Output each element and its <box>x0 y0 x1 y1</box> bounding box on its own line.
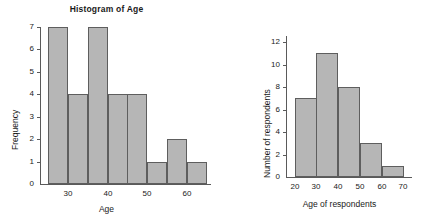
histogram-bar <box>382 166 404 177</box>
y-tick-label: 6 <box>2 45 34 53</box>
y-tick-label: 5 <box>2 68 34 76</box>
x-tick-label: 50 <box>132 190 162 198</box>
y-tick-label: 4 <box>2 90 34 98</box>
y-tick-label: 0 <box>2 180 34 188</box>
y-axis-line <box>286 36 287 177</box>
histogram-bar <box>88 27 108 184</box>
y-tick-mark <box>283 87 286 88</box>
histogram-bar <box>68 94 88 184</box>
histogram-bar <box>167 139 187 184</box>
y-tick-mark <box>283 155 286 156</box>
y-tick-mark <box>37 117 40 118</box>
chart-panel-age-histogram: Histogram of Age 0123456730405060 Age Fr… <box>0 0 213 223</box>
x-axis-line <box>40 184 211 185</box>
histogram-bar <box>147 162 167 184</box>
y-axis-line <box>40 27 41 184</box>
y-tick-mark <box>37 49 40 50</box>
y-tick-mark <box>37 27 40 28</box>
histogram-figure: Histogram of Age 0123456730405060 Age Fr… <box>0 0 426 223</box>
y-tick-label: 7 <box>2 23 34 31</box>
x-axis-title: Age of respondents <box>253 200 426 209</box>
y-axis-title: Number of respondents <box>263 89 272 178</box>
histogram-bar <box>127 94 147 184</box>
histogram-bar <box>187 162 207 184</box>
histogram-bar <box>108 94 128 184</box>
chart-panel-respondents-histogram: 024681012203040506070 Age of respondents… <box>213 0 426 223</box>
x-tick-label: 60 <box>172 190 202 198</box>
y-tick-mark <box>283 65 286 66</box>
y-tick-label: 12 <box>248 38 280 46</box>
histogram-bar <box>295 98 317 177</box>
plot-area: 0123456730405060 <box>0 0 213 223</box>
x-tick-label: 70 <box>388 183 418 191</box>
y-tick-mark <box>37 94 40 95</box>
y-tick-mark <box>283 132 286 133</box>
y-tick-label: 10 <box>248 61 280 69</box>
y-tick-mark <box>37 162 40 163</box>
histogram-bar <box>360 143 382 177</box>
y-tick-label: 1 <box>2 158 34 166</box>
histogram-bar <box>316 53 338 177</box>
plot-area: 024681012203040506070 <box>213 0 426 223</box>
y-tick-mark <box>283 42 286 43</box>
histogram-bar <box>338 87 360 177</box>
x-tick-label: 30 <box>53 190 83 198</box>
x-tick-label: 40 <box>93 190 123 198</box>
histogram-bar <box>48 27 68 184</box>
x-axis-line <box>286 177 412 178</box>
y-tick-mark <box>37 72 40 73</box>
y-tick-mark <box>37 139 40 140</box>
y-axis-title: Frequency <box>11 110 20 150</box>
x-axis-title: Age <box>0 205 213 214</box>
y-tick-mark <box>283 110 286 111</box>
